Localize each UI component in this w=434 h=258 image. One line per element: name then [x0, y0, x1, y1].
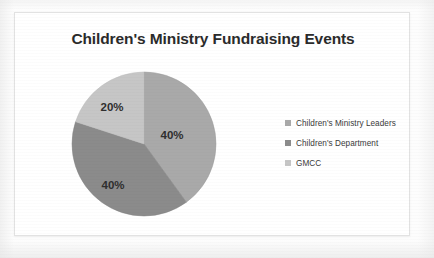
chart-title: Children's Ministry Fundraising Events: [15, 30, 411, 48]
pie-chart-svg: 40% 40% 20%: [69, 69, 219, 219]
pie-slice-label-childrens-ministry-leaders: 40%: [160, 129, 183, 141]
legend-label-childrens-ministry-leaders: Children's Ministry Leaders: [296, 119, 396, 128]
legend-item-childrens-ministry-leaders[interactable]: Children's Ministry Leaders: [285, 117, 409, 129]
legend-item-gmcc[interactable]: GMCC: [285, 157, 409, 169]
legend-label-gmcc: GMCC: [296, 159, 321, 168]
chart-legend: Children's Ministry Leaders Children's D…: [285, 117, 409, 177]
legend-label-childrens-department: Children's Department: [296, 139, 378, 148]
legend-item-childrens-department[interactable]: Children's Department: [285, 137, 409, 149]
legend-swatch-icon-childrens-department: [285, 140, 291, 146]
legend-swatch-icon-childrens-ministry-leaders: [285, 120, 291, 126]
chart-frame: Children's Ministry Fundraising Events 4…: [14, 12, 410, 236]
chart-page: Children's Ministry Fundraising Events 4…: [0, 0, 434, 258]
legend-swatch-icon-gmcc: [285, 160, 291, 166]
pie-chart-plot-area: 40% 40% 20%: [69, 69, 219, 219]
pie-slice-label-childrens-department: 40%: [101, 179, 124, 191]
pie-slice-label-gmcc: 20%: [100, 101, 123, 113]
